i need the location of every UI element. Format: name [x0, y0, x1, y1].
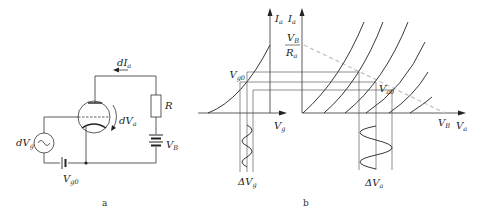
- label-right-ia: Ia: [287, 13, 296, 26]
- triode-tube-icon: [78, 101, 110, 133]
- label-R: R: [164, 100, 173, 111]
- anode-wire: [95, 76, 156, 103]
- label-delta-va: ΔVa: [364, 177, 383, 190]
- label-vg0: Vg0: [229, 69, 245, 82]
- label-dIa: dIa: [117, 57, 131, 70]
- left-ia-arrow-icon: [268, 8, 273, 16]
- label-va-axis: Va: [456, 120, 467, 133]
- dva-arrow-icon: [113, 105, 117, 129]
- circuit-panel-a: dIa R dVa VB dVg Vg0 a: [16, 57, 178, 208]
- label-Vg0: Vg0: [63, 173, 79, 186]
- label-delta-vg: ΔVg: [237, 176, 257, 189]
- caption-a: a: [102, 198, 108, 208]
- battery-vg0: [60, 157, 68, 169]
- grid-wire: [44, 117, 78, 133]
- diagram-canvas: dIa R dVa VB dVg Vg0 a: [0, 0, 483, 216]
- label-VB: VB: [166, 139, 178, 152]
- vg-arrow-icon: [279, 111, 287, 116]
- right-ia-arrow-icon: [300, 8, 305, 16]
- label-dVa: dVa: [119, 115, 137, 128]
- dia-arrowhead-icon: [113, 68, 119, 73]
- dva-arrowhead-icon: [111, 125, 116, 131]
- svg-text:VB: VB: [287, 32, 299, 45]
- anode-curves: [303, 22, 432, 113]
- label-left-ia: Ia: [274, 13, 283, 26]
- label-dVg: dVg: [16, 137, 34, 150]
- label-vg-axis: Vg: [274, 120, 285, 133]
- characteristics-panel-b: Ia Ia VB Ra Vg0 Va0 Vg VB Va ΔVg ΔVa b: [198, 8, 467, 208]
- label-vb-over-ra: VB Ra: [285, 32, 300, 60]
- resistor: [151, 95, 161, 117]
- battery-vb: [149, 135, 163, 146]
- ac-source-icon: [34, 133, 54, 153]
- caption-b: b: [303, 198, 309, 208]
- va-arrow-icon: [458, 111, 466, 116]
- label-vb-intercept: VB: [438, 117, 450, 130]
- projection-horizontal: [240, 72, 392, 90]
- svg-text:Ra: Ra: [285, 47, 298, 60]
